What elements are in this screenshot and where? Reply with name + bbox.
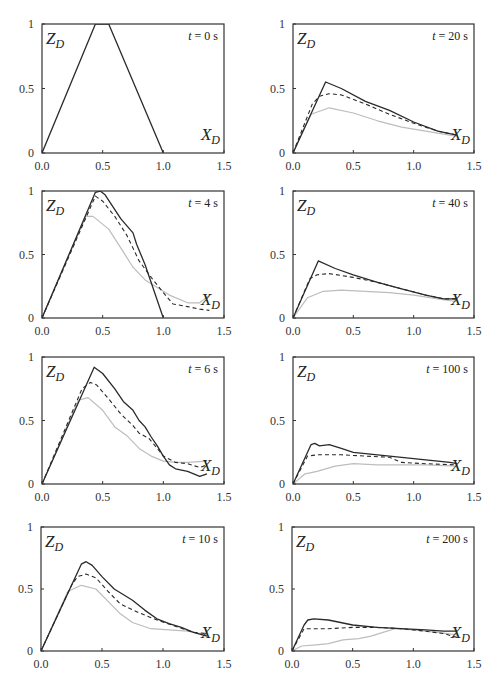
x-axis-label: XD [450, 125, 470, 147]
y-tick-label: 0 [28, 477, 34, 491]
y-axis-label: ZD [297, 29, 315, 51]
panel-time-label: t = 40 s [432, 196, 468, 210]
line-solid [293, 261, 456, 318]
x-tick-label: 0.5 [95, 657, 110, 671]
x-axis-label: XD [450, 623, 470, 645]
y-axis-label: ZD [297, 196, 315, 218]
x-tick-label: 1.5 [217, 490, 232, 504]
x-axis-label: XD [200, 623, 220, 645]
x-tick-label: 0.0 [35, 159, 50, 173]
y-tick-label: 0 [279, 146, 285, 160]
x-tick-label: 0.0 [286, 159, 301, 173]
x-tick-label: 0.5 [95, 324, 110, 338]
x-axis-label: XD [200, 456, 220, 478]
x-tick-label: 0.0 [286, 490, 301, 504]
panel-time-label: t = 20 s [432, 29, 468, 43]
y-tick-label: 1 [28, 17, 34, 31]
y-tick-label: 1 [279, 184, 285, 198]
x-tick-label: 1.5 [467, 324, 482, 338]
chart-panel-1: 0.00.51.01.500.51ZDXDt = 0 s [19, 17, 232, 173]
y-tick-label: 0 [27, 644, 33, 658]
y-tick-label: 0.5 [270, 248, 285, 262]
x-tick-label: 1.5 [217, 159, 232, 173]
y-axis-label: ZD [46, 29, 64, 51]
x-tick-label: 1.0 [156, 324, 171, 338]
chart-panel-6: 0.00.51.01.500.51ZDXDt = 100 s [270, 350, 482, 504]
x-tick-label: 1.0 [406, 490, 421, 504]
y-tick-label: 1 [278, 520, 284, 534]
x-tick-label: 1.5 [467, 159, 482, 173]
x-tick-label: 1.5 [467, 490, 482, 504]
y-tick-label: 0 [28, 311, 34, 325]
x-axis-label: XD [200, 125, 220, 147]
x-tick-label: 1.5 [467, 657, 482, 671]
line-dotted [42, 216, 209, 318]
y-tick-label: 1 [279, 350, 285, 364]
x-tick-label: 1.5 [217, 324, 232, 338]
line-dashed [293, 455, 457, 484]
panel-time-label: t = 6 s [188, 362, 218, 376]
x-tick-label: 0.0 [35, 490, 50, 504]
y-axis-label: ZD [45, 532, 63, 554]
x-tick-label: 0.5 [346, 159, 361, 173]
line-dashed [293, 94, 456, 153]
y-axis-label: ZD [46, 362, 64, 384]
y-axis-label: ZD [296, 532, 314, 554]
line-dotted [42, 398, 207, 484]
y-tick-label: 1 [28, 350, 34, 364]
chart-panel-7: 0.00.51.01.500.51ZDXDt = 10 s [18, 520, 232, 671]
chart-panel-2: 0.00.51.01.500.51ZDXDt = 20 s [270, 17, 482, 173]
x-tick-label: 1.0 [156, 657, 171, 671]
chart-panel-3: 0.00.51.01.500.51ZDXDt = 4 s [19, 184, 232, 338]
x-tick-label: 1.5 [217, 657, 232, 671]
panel-time-label: t = 100 s [426, 362, 468, 376]
x-tick-label: 1.0 [406, 159, 421, 173]
x-tick-label: 1.0 [406, 657, 421, 671]
x-tick-label: 0.0 [35, 324, 50, 338]
x-tick-label: 0.5 [346, 324, 361, 338]
x-tick-label: 0.5 [345, 657, 360, 671]
x-tick-label: 0.0 [286, 324, 301, 338]
y-axis-label: ZD [297, 362, 315, 384]
y-tick-label: 0.5 [270, 82, 285, 96]
x-tick-label: 1.0 [406, 324, 421, 338]
y-tick-label: 0.5 [270, 414, 285, 428]
series-group [292, 619, 457, 651]
x-tick-label: 1.0 [156, 159, 171, 173]
y-tick-label: 1 [27, 520, 33, 534]
x-axis-label: XD [450, 456, 470, 478]
panel-time-label: t = 4 s [188, 196, 218, 210]
y-tick-label: 0 [279, 477, 285, 491]
line-solid [41, 562, 207, 651]
y-tick-label: 0 [279, 311, 285, 325]
x-tick-label: 0.0 [285, 657, 300, 671]
series-group [293, 261, 456, 318]
x-tick-label: 1.0 [156, 490, 171, 504]
chart-panel-8: 0.00.51.01.500.51ZDXDt = 200 s [269, 520, 482, 671]
series-group [41, 562, 207, 651]
x-axis-label: XD [200, 290, 220, 312]
x-tick-label: 0.5 [95, 159, 110, 173]
line-dotted [292, 629, 457, 651]
y-tick-label: 1 [28, 184, 34, 198]
x-tick-label: 0.0 [34, 657, 49, 671]
line-dotted [293, 464, 457, 484]
line-dashed [42, 196, 209, 318]
y-tick-label: 1 [279, 17, 285, 31]
x-tick-label: 0.5 [95, 490, 110, 504]
y-tick-label: 0.5 [19, 248, 34, 262]
panel-time-label: t = 0 s [188, 29, 218, 43]
figure-canvas: 0.00.51.01.500.51ZDXDt = 0 s0.00.51.01.5… [0, 0, 501, 687]
panel-time-label: t = 200 s [426, 532, 468, 546]
chart-panel-4: 0.00.51.01.500.51ZDXDt = 40 s [270, 184, 482, 338]
panel-time-label: t = 10 s [182, 532, 218, 546]
line-dashed [41, 574, 207, 651]
y-tick-label: 0.5 [19, 82, 34, 96]
y-tick-label: 0.5 [18, 582, 33, 596]
y-axis-label: ZD [46, 196, 64, 218]
chart-panel-5: 0.00.51.01.500.51ZDXDt = 6 s [19, 350, 232, 504]
x-tick-label: 0.5 [346, 490, 361, 504]
y-tick-label: 0 [28, 146, 34, 160]
line-solid [293, 82, 456, 153]
y-tick-label: 0.5 [19, 414, 34, 428]
